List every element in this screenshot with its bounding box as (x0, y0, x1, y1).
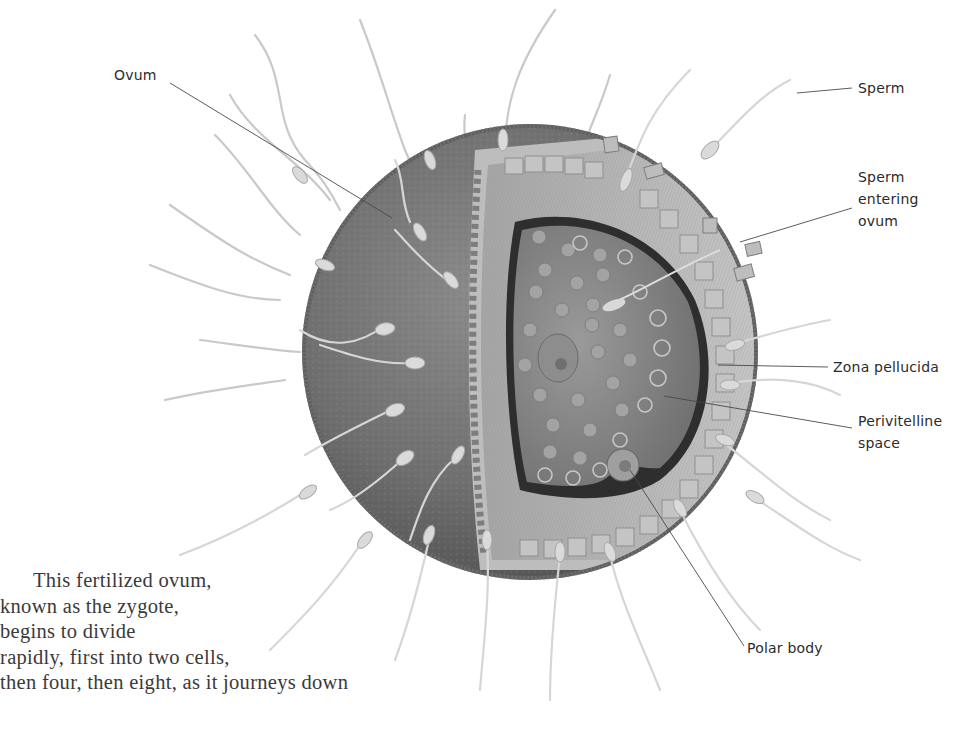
label-line: entering (858, 188, 919, 210)
label-sperm: Sperm (858, 77, 905, 99)
leader-sperm (797, 88, 852, 93)
body-paragraph: This fertilized ovum, known as the zygot… (0, 568, 348, 696)
body-line: rapidly, first into two cells, (0, 645, 348, 671)
label-line: space (858, 432, 942, 454)
label-perivitelline-space: Perivitelline space (858, 410, 942, 454)
label-zona-pellucida: Zona pellucida (833, 356, 939, 378)
label-line: ovum (858, 210, 919, 232)
body-line: then four, then eight, as it journeys do… (0, 670, 348, 696)
body-line: known as the zygote, (0, 594, 348, 620)
cutaway-section (469, 120, 800, 570)
body-line: begins to divide (0, 619, 348, 645)
label-line: Sperm (858, 166, 919, 188)
leader-sperm-entering (740, 208, 852, 242)
label-line: Perivitelline (858, 410, 942, 432)
label-ovum: Ovum (114, 64, 157, 86)
label-sperm-entering-ovum: Sperm entering ovum (858, 166, 919, 232)
body-line: This fertilized ovum, (0, 568, 348, 594)
label-polar-body: Polar body (747, 637, 823, 659)
